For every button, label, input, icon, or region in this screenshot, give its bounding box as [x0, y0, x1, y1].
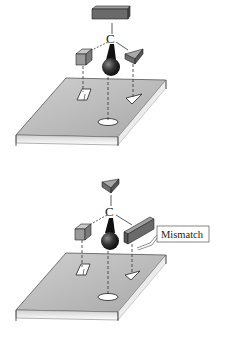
wedge-group: [102, 179, 119, 193]
sphere-group: [101, 232, 119, 250]
chiral-center-label: C: [106, 31, 115, 46]
chiral-recognition-diagram: C: [0, 0, 226, 337]
receptor-plate: [16, 78, 166, 146]
mismatch-label: Mismatch: [161, 229, 204, 240]
wedge-group: [125, 49, 143, 64]
sphere-group: [102, 58, 120, 76]
panel-bottom: C Mismatch: [16, 179, 209, 321]
long-block-group: [124, 217, 154, 244]
circle-site: [98, 294, 118, 301]
chiral-center-label: C: [105, 204, 114, 219]
rectangular-block-group: [92, 6, 130, 19]
panel-top: C: [16, 6, 166, 146]
cube-group: [75, 224, 91, 240]
cube-group: [76, 49, 92, 65]
receptor-plate: [16, 253, 166, 321]
